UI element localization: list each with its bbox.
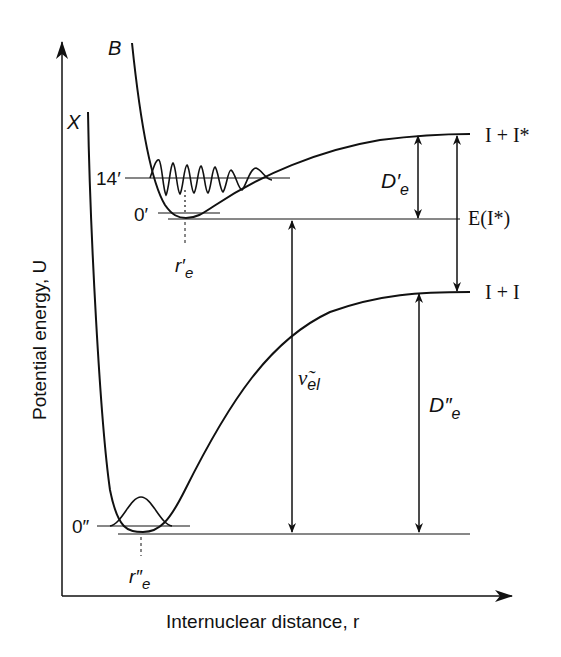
energy-arrows bbox=[292, 136, 457, 532]
b-state-curve bbox=[132, 43, 470, 218]
nu-el-label: ν̃el bbox=[298, 366, 320, 393]
level-label-x-v0: 0″ bbox=[72, 516, 90, 537]
x-state-curve bbox=[88, 112, 470, 532]
curve-label-b: B bbox=[108, 37, 121, 59]
b-v14-wavefunction bbox=[150, 160, 272, 195]
x-v0-wavefunction bbox=[110, 497, 172, 526]
b-re-label: r′e bbox=[175, 255, 193, 281]
curve-label-x: X bbox=[66, 111, 81, 133]
level-label-b-v0: 0′ bbox=[134, 204, 149, 225]
de-prime-label: D′e bbox=[381, 169, 409, 198]
x-axis-label: Internuclear distance, r bbox=[166, 611, 360, 632]
potential-energy-diagram: B X 14′ 0′ 0″ r′e r″e D′e E(I*) ν̃el D″e… bbox=[0, 0, 561, 657]
e-istar-label: E(I*) bbox=[468, 207, 510, 230]
y-axis-label: Potential energy, U bbox=[29, 260, 50, 420]
asymptote-label-upper: I + I* bbox=[485, 124, 530, 146]
axes bbox=[62, 42, 512, 596]
x-re-label: r″e bbox=[129, 566, 150, 592]
asymptote-label-lower: I + I bbox=[485, 281, 520, 303]
de-dprime-label: D″e bbox=[429, 393, 461, 422]
level-label-b-v14: 14′ bbox=[96, 168, 121, 189]
